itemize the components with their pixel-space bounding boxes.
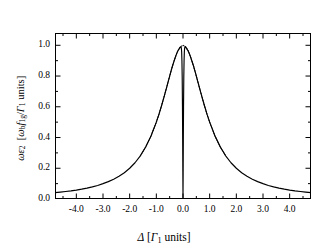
y-tick-label: 0.4 xyxy=(24,133,50,143)
y-tick-label: 0.0 xyxy=(24,194,50,204)
y-axis-label: ωε2 [ωbf1g/Γ1 units] xyxy=(15,33,28,203)
x-axis-label: Δ [Γ1 units] xyxy=(0,231,328,245)
y-tick-label: 0.6 xyxy=(24,102,50,112)
curve-with-spectral-hole xyxy=(55,47,311,198)
plot-canvas xyxy=(55,33,311,199)
y-tick-label: 0.2 xyxy=(24,163,50,173)
y-tick-label: 1.0 xyxy=(24,40,50,50)
figure: -4.0-3.0-2.0-1.00.01.02.03.04.0 0.00.20.… xyxy=(0,0,328,252)
y-tick-label: 0.8 xyxy=(24,71,50,81)
data-curves xyxy=(55,45,311,197)
x-tick-label: 4.0 xyxy=(274,205,306,215)
